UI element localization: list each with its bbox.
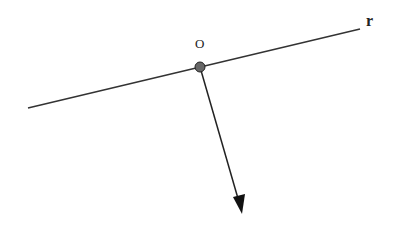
arrow-shaft xyxy=(200,67,239,202)
line-r xyxy=(28,29,360,108)
line-label: r xyxy=(366,12,373,29)
diagram-svg: O r xyxy=(0,0,395,230)
point-o xyxy=(195,62,205,72)
arrowhead-icon xyxy=(233,194,245,214)
diagram-canvas: O r xyxy=(0,0,395,230)
point-label: O xyxy=(195,36,204,51)
